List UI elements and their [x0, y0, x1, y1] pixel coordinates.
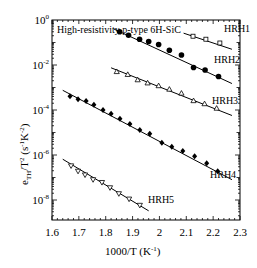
fit-line-hrh5	[63, 159, 149, 211]
y-tick-label: 10-6	[32, 148, 49, 161]
fit-line-hrh4	[63, 90, 232, 179]
series-label-hrh4: HRH4	[210, 169, 236, 180]
x-tick-label: 2	[157, 226, 163, 238]
series-label-hrh3: HRH3	[212, 95, 238, 106]
data-point-hrh5	[82, 173, 87, 178]
data-point-hrh4	[147, 131, 152, 137]
data-point-hrh5	[68, 164, 73, 169]
y-title-sub: TH	[25, 171, 33, 180]
data-point-hrh4	[67, 93, 72, 99]
y-title-units-close: )	[18, 123, 31, 127]
data-point-hrh3	[202, 101, 207, 106]
data-point-hrh3	[191, 98, 196, 103]
data-point-hrh4	[117, 116, 122, 122]
series-label-hrh1: HRH1	[224, 23, 250, 34]
chart: 1.61.71.81.922.12.22.3 10010-210-410-610…	[0, 0, 257, 268]
plot-frame	[52, 20, 240, 220]
y-title-mid: /T	[18, 161, 30, 171]
x-axis-title: 1000/T (K-1)	[105, 245, 161, 258]
data-point-hrh2	[167, 48, 173, 54]
data-point-hrh5	[137, 203, 142, 208]
fit-lines	[63, 29, 232, 211]
data-point-hrh4	[192, 153, 197, 159]
y-tick-label: 10-4	[32, 103, 49, 116]
data-point-hrh3	[214, 106, 219, 111]
data-point-hrh1	[218, 41, 222, 45]
data-point-hrh2	[146, 39, 152, 45]
y-axis-ticks: 10010-210-410-610-8	[32, 13, 240, 216]
data-points	[67, 29, 221, 208]
x-axis-title-close: )	[157, 245, 161, 258]
data-point-hrh3	[167, 87, 172, 92]
x-tick-label: 2.1	[179, 226, 193, 238]
x-tick-label: 2.3	[233, 226, 247, 238]
data-point-hrh5	[107, 186, 112, 191]
plot-area: 1.61.71.81.922.12.22.3 10010-210-410-610…	[32, 13, 250, 238]
data-point-hrh4	[127, 121, 132, 127]
data-point-hrh1	[191, 34, 195, 38]
y-tick-label: 10-2	[32, 58, 49, 71]
series-label-hrh5: HRH5	[148, 194, 174, 205]
data-point-hrh1	[204, 37, 208, 41]
data-point-hrh4	[91, 102, 96, 108]
y-tick-label: 100	[35, 13, 50, 26]
data-point-hrh2	[202, 67, 208, 73]
x-axis-title-main: 1000/T (K	[105, 245, 151, 258]
data-point-hrh5	[75, 169, 80, 174]
data-point-hrh5	[126, 197, 131, 202]
data-point-hrh5	[90, 178, 95, 183]
annotation-text: High-resistivity p-type 6H-SiC	[57, 24, 181, 35]
data-point-hrh2	[137, 36, 143, 42]
data-point-hrh2	[179, 52, 185, 58]
data-point-hrh4	[109, 111, 114, 117]
x-tick-label: 2.2	[206, 226, 220, 238]
x-axis-ticks: 1.61.71.81.922.12.22.3	[45, 20, 247, 238]
data-point-hrh3	[179, 91, 184, 96]
data-point-hrh2	[191, 65, 197, 71]
y-title-units: (s	[18, 147, 31, 155]
data-point-hrh4	[159, 140, 164, 146]
data-point-hrh2	[216, 74, 222, 80]
x-tick-label: 1.9	[126, 226, 140, 238]
x-tick-label: 1.6	[45, 226, 59, 238]
x-tick-label: 1.8	[99, 226, 113, 238]
series-labels: HRH1HRH2HRH3HRH4HRH5	[148, 23, 250, 205]
series-label-hrh2: HRH2	[214, 54, 240, 65]
data-point-hrh2	[156, 42, 162, 48]
y-axis-title: eTH/T2 (s-1K-2)	[18, 123, 33, 185]
y-tick-label: 10-8	[32, 193, 49, 206]
y-title-units-k: K	[18, 133, 30, 141]
x-tick-label: 1.7	[72, 226, 86, 238]
